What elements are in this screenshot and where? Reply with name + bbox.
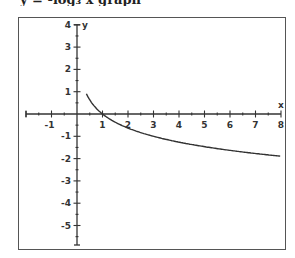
x-tick-label: 6 — [227, 120, 233, 130]
y-tick-label: -5 — [61, 221, 71, 231]
x-tick-label: 3 — [150, 120, 156, 130]
y-tick-label: 2 — [65, 64, 71, 74]
y-tick-label: 4 — [65, 20, 71, 30]
x-axis-label: x — [278, 100, 284, 110]
x-tick-label: -1 — [45, 120, 55, 130]
x-tick-label: 8 — [278, 120, 284, 130]
y-tick-label: -1 — [61, 131, 71, 141]
x-tick-label: 7 — [252, 120, 258, 130]
chart-plot: -1123456784321-1-2-3-4-5xy — [0, 0, 295, 258]
x-tick-label: 4 — [176, 120, 182, 130]
y-tick-label: -4 — [61, 198, 71, 208]
curve-line — [86, 94, 280, 156]
x-tick-label: 5 — [201, 120, 207, 130]
y-tick-label: 1 — [65, 87, 71, 97]
y-tick-label: -2 — [61, 154, 71, 164]
y-tick-label: -3 — [61, 176, 71, 186]
y-tick-label: 3 — [65, 42, 71, 52]
y-axis-label: y — [82, 20, 88, 30]
x-tick-label: 1 — [99, 120, 105, 130]
